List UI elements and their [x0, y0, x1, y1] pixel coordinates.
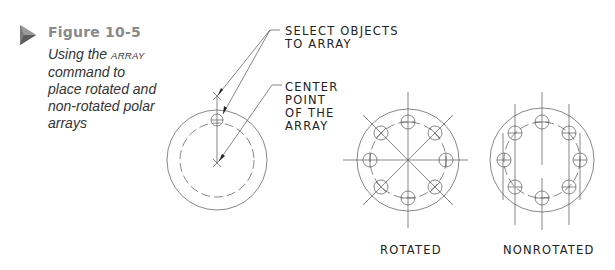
callout-select-objects-line1: SELECT OBJECTS: [285, 24, 399, 38]
cad-drawing: SELECT OBJECTS TO ARRAY CENTER POINT OF …: [0, 0, 615, 270]
callout-select-objects-line2: TO ARRAY: [284, 37, 352, 51]
callout-center-point-line1: CENTER: [285, 80, 338, 94]
source-view: [167, 30, 282, 210]
callout-center-point-line3: OF THE: [285, 106, 334, 120]
callout-center-point-line2: POINT: [285, 93, 326, 107]
label-nonrotated: NONROTATED: [503, 243, 595, 257]
nonrotated-view: [490, 92, 594, 230]
rotated-view: [343, 92, 468, 228]
label-rotated: ROTATED: [380, 243, 442, 257]
callout-center-point-line4: ARRAY: [285, 119, 328, 133]
